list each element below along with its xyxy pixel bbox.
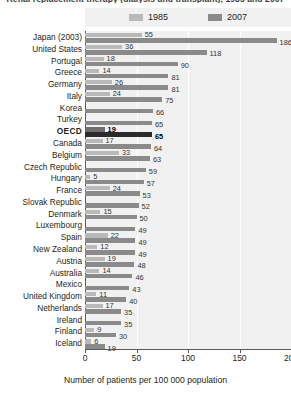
- bar-1985: [85, 69, 99, 73]
- category-label: Hungary: [51, 173, 82, 183]
- category-label: Ireland: [57, 315, 82, 325]
- bar-value-1985: 19: [108, 126, 116, 133]
- legend-entry-1985: 1985: [129, 13, 168, 22]
- x-tick-label: 0: [83, 354, 88, 363]
- category-label: Spain: [61, 232, 82, 242]
- category-label: Belgium: [52, 150, 82, 160]
- bar-value-1985: 9: [97, 326, 101, 333]
- bar-value-1985: 17: [106, 137, 114, 144]
- x-axis-ticks: 050100150200: [85, 350, 291, 362]
- category-label: France: [56, 185, 82, 195]
- category-label: Portugal: [51, 56, 82, 66]
- bar-value-1985: 19: [108, 255, 116, 262]
- bar-1985: [85, 233, 108, 237]
- bar-1985: [85, 269, 99, 273]
- category-label: Australia: [50, 268, 82, 278]
- category-label: New Zealand: [33, 244, 82, 254]
- bar-value-1985: 24: [113, 185, 121, 192]
- category-label: Canada: [53, 138, 82, 148]
- bar-value-1985: 11: [99, 291, 107, 298]
- legend-swatch-2007: [208, 14, 222, 21]
- x-tick-label: 200: [284, 354, 291, 363]
- category-label: Denmark: [48, 209, 82, 219]
- category-label: Finland: [55, 326, 82, 336]
- category-label: Slovak Republic: [23, 197, 83, 207]
- bar-1985: [85, 127, 105, 131]
- bar-1985: [85, 257, 105, 261]
- bar-1985: [85, 328, 94, 332]
- bar-value-1985: 18: [107, 55, 115, 62]
- bar-value-1985: 24: [113, 90, 121, 97]
- bar-1985: [85, 339, 91, 343]
- category-label: Italy: [67, 91, 82, 101]
- bar-value-1985: 12: [100, 243, 108, 250]
- x-tick-label: 100: [181, 354, 195, 363]
- category-label: Austria: [56, 256, 82, 266]
- bar-value-1985: 55: [145, 31, 153, 38]
- x-axis-title: Number of patients per 100 000 populatio…: [0, 375, 291, 385]
- bar-1985: [85, 175, 90, 179]
- chart-legend: 1985 2007: [85, 8, 291, 27]
- chart-title: Renal replacement therapy (dialysis and …: [0, 0, 291, 3]
- bar-1985: [85, 92, 110, 96]
- category-label: Japan (2003): [33, 32, 82, 42]
- category-label: Greece: [55, 67, 82, 77]
- category-label: Luxembourg: [36, 220, 82, 230]
- legend-label-2007: 2007: [227, 13, 247, 22]
- bar-value-1985: 36: [125, 43, 133, 50]
- bar-1985: [85, 80, 112, 84]
- x-tick-label: 150: [232, 354, 246, 363]
- bar-value-1985: 14: [102, 267, 110, 274]
- bar-1985: [85, 186, 110, 190]
- chart-container: Renal replacement therapy (dialysis and …: [0, 0, 291, 395]
- category-label: Czech Republic: [24, 162, 82, 172]
- bar-value-1985: 22: [111, 232, 119, 239]
- category-label: Germany: [48, 79, 82, 89]
- bar-value-1985: 14: [102, 67, 110, 74]
- bar-value-1985: 33: [122, 149, 130, 156]
- bar-1985: [85, 139, 103, 143]
- legend-entry-2007: 2007: [208, 13, 247, 22]
- bar-value-1985: 15: [103, 208, 111, 215]
- category-label: Korea: [60, 103, 82, 113]
- bar-1985: [85, 292, 96, 296]
- bar-1985: [85, 245, 97, 249]
- category-label: United States: [32, 44, 82, 54]
- category-label: Mexico: [56, 279, 82, 289]
- bar-1985: [85, 33, 142, 37]
- bar-1985: [85, 304, 103, 308]
- legend-label-1985: 1985: [148, 13, 168, 22]
- bar-value-1985: 6: [94, 338, 98, 345]
- legend-swatch-1985: [129, 14, 143, 21]
- bar-1985: [85, 45, 122, 49]
- bar-value-1985: 5: [93, 173, 97, 180]
- category-label: OECD: [57, 126, 82, 136]
- x-tick-label: 50: [132, 354, 141, 363]
- category-label: Netherlands: [37, 303, 82, 313]
- category-label: United Kingdom: [23, 291, 82, 301]
- bar-rows: Japan (2003)18655United States11836Portu…: [0, 31, 291, 349]
- bar-1985: [85, 210, 100, 214]
- bar-value-1985: 26: [115, 79, 123, 86]
- bar-1985: [85, 57, 104, 61]
- bar-value-1985: 17: [106, 302, 114, 309]
- category-label: Turkey: [57, 114, 82, 124]
- bar-1985: [85, 151, 119, 155]
- category-label: Iceland: [55, 338, 82, 348]
